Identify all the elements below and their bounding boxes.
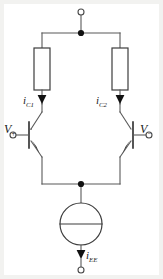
resistor-left [34,48,50,90]
wire-left-emitter-slant [31,141,42,157]
diagram-canvas: iC1 iC2 V+ V− iEE [0,0,163,279]
tail-terminal-bottom[interactable] [78,267,84,273]
label-input-positive: V+ [4,123,16,135]
tail-current-arrow-icon [77,250,86,259]
junction-top-rail [78,30,84,36]
circuit-schematic [0,0,163,279]
wire-right-emitter-slant [120,141,131,157]
supply-terminal-top[interactable] [78,9,84,15]
label-tail-current: iEE [86,250,97,261]
resistor-right [112,48,128,90]
label-input-negative: V− [140,123,152,135]
wire-right-collector-slant [120,112,131,129]
current-arrow-right-icon [116,95,125,104]
current-arrow-left-icon [38,95,47,104]
junction-emitter-rail [78,181,84,187]
wire-left-collector-slant [31,112,42,129]
label-collector-current-left: iC1 [23,95,34,106]
label-collector-current-right: iC2 [96,95,107,106]
